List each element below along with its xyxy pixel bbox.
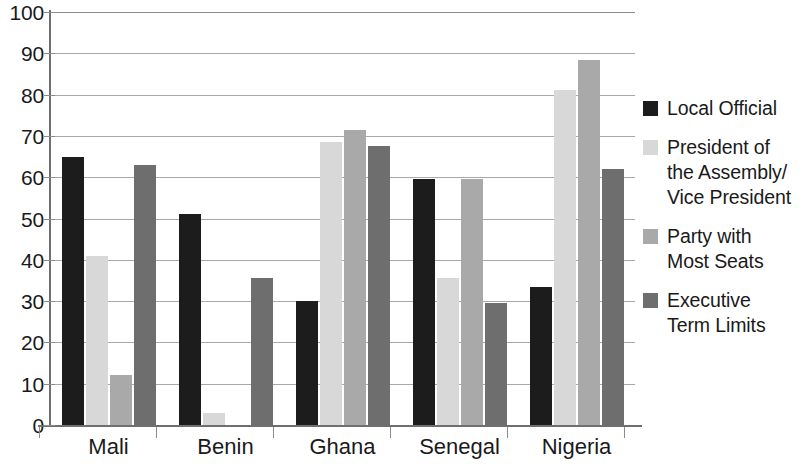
y-tick-mark-60 bbox=[44, 177, 55, 178]
bar-senegal-series-1 bbox=[437, 278, 459, 425]
bar-ghana-series-1 bbox=[320, 142, 342, 425]
y-tick-label-50: 50 bbox=[0, 208, 44, 229]
legend-label-3: ExecutiveTerm Limits bbox=[667, 288, 766, 338]
plot-wrapper: 1009080706050403020100 MaliBeninGhanaSen… bbox=[0, 0, 645, 466]
x-label-senegal: Senegal bbox=[401, 432, 518, 462]
x-tick-mark-5 bbox=[624, 427, 625, 438]
legend-item-1[interactable]: President ofthe Assembly/Vice President bbox=[643, 135, 807, 210]
legend-label-0: Local Official bbox=[667, 96, 777, 121]
legend-swatch-icon-2 bbox=[643, 229, 658, 244]
bar-ghana-series-2 bbox=[344, 130, 366, 425]
bar-group-senegal bbox=[401, 12, 518, 425]
bar-mali-series-0 bbox=[62, 157, 84, 425]
bar-nigeria-series-2 bbox=[578, 60, 600, 426]
legend-swatch-icon-0 bbox=[643, 101, 658, 116]
legend-swatch-icon-1 bbox=[643, 140, 658, 155]
bar-nigeria-series-0 bbox=[530, 287, 552, 425]
x-tick-mark-4 bbox=[507, 427, 508, 438]
y-tick-label-80: 80 bbox=[0, 84, 44, 105]
legend-item-0[interactable]: Local Official bbox=[643, 96, 807, 121]
x-label-ghana: Ghana bbox=[284, 432, 401, 462]
y-tick-label-30: 30 bbox=[0, 291, 44, 312]
x-label-benin: Benin bbox=[167, 432, 284, 462]
y-tick-label-100: 100 bbox=[0, 2, 44, 23]
legend-item-3[interactable]: ExecutiveTerm Limits bbox=[643, 288, 807, 338]
x-label-mali: Mali bbox=[50, 432, 167, 462]
y-tick-mark-100 bbox=[44, 12, 55, 13]
x-tick-mark-3 bbox=[390, 427, 391, 438]
bar-benin-series-0 bbox=[179, 214, 201, 425]
y-tick-mark-80 bbox=[44, 95, 55, 96]
bar-nigeria-series-1 bbox=[554, 90, 576, 425]
bar-group-nigeria bbox=[518, 12, 635, 425]
y-tick-mark-0 bbox=[44, 425, 55, 426]
bar-ghana-series-3 bbox=[368, 146, 390, 425]
x-tick-mark-2 bbox=[273, 427, 274, 438]
chart-legend: Local OfficialPresident ofthe Assembly/V… bbox=[643, 96, 807, 352]
bar-group-mali bbox=[50, 12, 167, 425]
y-tick-label-90: 90 bbox=[0, 43, 44, 64]
legend-item-2[interactable]: Party withMost Seats bbox=[643, 224, 807, 274]
bar-group-benin bbox=[167, 12, 284, 425]
bar-benin-series-3 bbox=[251, 278, 273, 425]
bar-senegal-series-0 bbox=[413, 179, 435, 425]
y-tick-mark-10 bbox=[44, 384, 55, 385]
bar-senegal-series-2 bbox=[461, 179, 483, 425]
y-tick-label-70: 70 bbox=[0, 125, 44, 146]
x-axis-line bbox=[38, 425, 642, 427]
y-tick-label-20: 20 bbox=[0, 332, 44, 353]
y-tick-mark-20 bbox=[44, 342, 55, 343]
y-tick-mark-30 bbox=[44, 301, 55, 302]
x-label-nigeria: Nigeria bbox=[518, 432, 635, 462]
bar-nigeria-series-3 bbox=[602, 169, 624, 425]
legend-swatch-icon-3 bbox=[643, 293, 658, 308]
plot-area bbox=[50, 12, 635, 425]
y-tick-mark-70 bbox=[44, 136, 55, 137]
legend-label-2: Party withMost Seats bbox=[667, 224, 764, 274]
y-tick-label-10: 10 bbox=[0, 373, 44, 394]
x-tick-mark-0 bbox=[39, 427, 40, 438]
bar-mali-series-2 bbox=[110, 375, 132, 425]
y-tick-label-60: 60 bbox=[0, 167, 44, 188]
bar-mali-series-3 bbox=[134, 165, 156, 425]
y-tick-label-40: 40 bbox=[0, 249, 44, 270]
y-axis-tick-labels: 1009080706050403020100 bbox=[0, 0, 44, 466]
bar-benin-series-1 bbox=[203, 413, 225, 425]
bar-chart: 1009080706050403020100 MaliBeninGhanaSen… bbox=[0, 0, 807, 466]
bar-mali-series-1 bbox=[86, 256, 108, 425]
y-tick-mark-50 bbox=[44, 219, 55, 220]
bar-senegal-series-3 bbox=[485, 303, 507, 425]
x-tick-mark-1 bbox=[156, 427, 157, 438]
x-axis-category-labels: MaliBeninGhanaSenegalNigeria bbox=[50, 432, 635, 466]
y-tick-mark-40 bbox=[44, 260, 55, 261]
bar-group-ghana bbox=[284, 12, 401, 425]
bar-ghana-series-0 bbox=[296, 301, 318, 425]
legend-label-1: President ofthe Assembly/Vice President bbox=[667, 135, 791, 210]
y-tick-mark-90 bbox=[44, 53, 55, 54]
